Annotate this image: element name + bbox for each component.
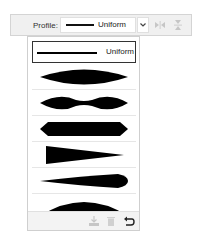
reset-profiles-button[interactable] — [123, 215, 135, 230]
profile-option-hexagon[interactable] — [32, 116, 136, 142]
double-bulge-profile-shape — [32, 90, 136, 116]
selected-profile-text: Uniform — [98, 20, 126, 29]
profile-option-double-bulge[interactable] — [32, 90, 136, 116]
flip-vertical-icon — [172, 19, 184, 31]
profile-option-uniform[interactable]: Uniform — [32, 41, 136, 63]
flip-across-button[interactable] — [172, 19, 184, 35]
chevron-down-icon — [139, 21, 147, 29]
flip-horizontal-icon — [154, 19, 166, 31]
profile-dropdown-list: Uniform — [27, 36, 140, 231]
add-to-profile-button[interactable] — [89, 215, 99, 230]
profile-option-leaf[interactable] — [32, 168, 136, 194]
reset-icon — [123, 215, 135, 227]
leaf-profile-shape — [32, 168, 136, 194]
profile-option-triangle[interactable] — [32, 142, 136, 168]
profile-option-ellipse[interactable] — [32, 64, 136, 90]
uniform-line-preview — [66, 24, 94, 26]
stroke-profile-toolbar: Profile: Uniform — [10, 14, 192, 36]
profile-label: Profile: — [33, 21, 58, 30]
flip-along-button[interactable] — [154, 19, 166, 35]
dropdown-chevron-button[interactable] — [137, 17, 149, 33]
trash-icon — [106, 215, 116, 227]
profile-select[interactable]: Uniform — [60, 17, 136, 33]
add-to-profile-icon — [89, 215, 99, 227]
dropdown-footer — [28, 211, 139, 230]
delete-profile-button[interactable] — [106, 215, 116, 230]
uniform-option-label: Uniform — [106, 47, 134, 56]
triangle-profile-shape — [32, 142, 136, 168]
ellipse-profile-shape — [32, 64, 136, 90]
hexagon-profile-shape — [32, 116, 136, 142]
